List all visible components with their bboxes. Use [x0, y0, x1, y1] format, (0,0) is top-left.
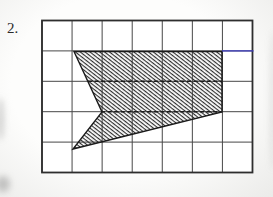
grid-area-figure [0, 0, 273, 197]
worksheet-page: 2. [0, 0, 273, 197]
